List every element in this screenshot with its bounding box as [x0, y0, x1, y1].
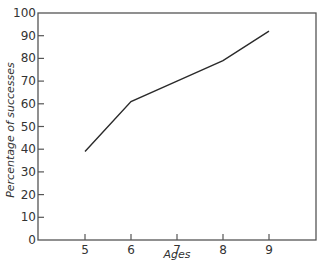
x-tick-label: 8 — [219, 243, 227, 257]
y-tick-label: 30 — [21, 165, 36, 179]
y-tick-label: 60 — [21, 97, 36, 111]
y-tick-label: 10 — [21, 210, 36, 224]
x-axis-label: Ages — [162, 248, 190, 261]
y-axis-ticks: 0102030405060708090100 — [13, 6, 44, 247]
plot-frame — [38, 13, 316, 240]
x-tick-label: 5 — [81, 243, 89, 257]
y-tick-label: 0 — [28, 233, 36, 247]
x-tick-label: 9 — [265, 243, 273, 257]
y-tick-label: 80 — [21, 51, 36, 65]
y-tick-label: 40 — [21, 142, 36, 156]
y-tick-label: 90 — [21, 29, 36, 43]
y-tick-label: 20 — [21, 188, 36, 202]
y-tick-label: 50 — [21, 120, 36, 134]
y-axis-label: Percentage of successes — [4, 62, 17, 198]
y-tick-label: 70 — [21, 74, 36, 88]
x-tick-label: 6 — [127, 243, 135, 257]
line-chart: 0102030405060708090100 56789 Ages Percen… — [0, 0, 323, 265]
data-line — [85, 31, 269, 151]
y-tick-label: 100 — [13, 6, 36, 20]
